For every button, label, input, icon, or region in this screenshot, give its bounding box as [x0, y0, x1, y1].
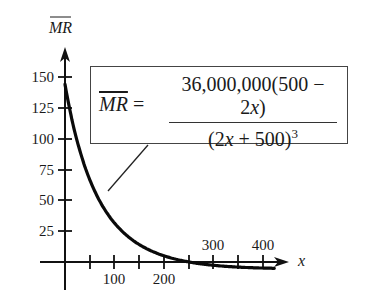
- svg-text:200: 200: [153, 271, 176, 287]
- formula-box: MR = 36,000,000(500 − 2x) (2x + 500)3: [90, 66, 348, 144]
- y-axis-title: MR: [48, 17, 72, 36]
- svg-text:150: 150: [32, 69, 55, 85]
- svg-text:25: 25: [39, 223, 54, 239]
- svg-text:75: 75: [39, 162, 54, 178]
- svg-text:100: 100: [103, 271, 126, 287]
- y-tick-labels: 150 125 100 75 50 25: [32, 69, 55, 239]
- svg-text:50: 50: [39, 192, 54, 208]
- svg-text:125: 125: [32, 100, 55, 116]
- callout-line: [108, 145, 148, 191]
- x-axis-title: x: [297, 252, 305, 269]
- svg-text:300: 300: [202, 237, 225, 253]
- svg-text:100: 100: [32, 131, 55, 147]
- formula-lhs: MR =: [99, 93, 144, 116]
- svg-text:400: 400: [252, 237, 275, 253]
- formula-numerator: 36,000,000(500 − 2x): [167, 73, 339, 122]
- formula-fraction: 36,000,000(500 − 2x) (2x + 500)3: [167, 73, 339, 151]
- svg-text:MR: MR: [48, 19, 72, 36]
- formula-denominator: (2x + 500)3: [167, 123, 339, 151]
